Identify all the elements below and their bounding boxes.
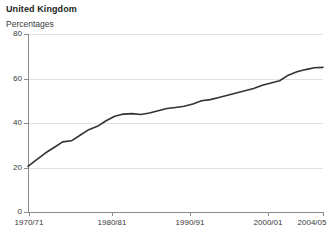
x-axis — [28, 212, 323, 216]
data-series-line — [28, 67, 323, 166]
gridlines — [28, 34, 323, 168]
plot-area — [0, 0, 336, 236]
y-axis — [24, 34, 28, 212]
chart-figure: United Kingdom Percentages 80 60 40 20 0… — [0, 0, 336, 236]
